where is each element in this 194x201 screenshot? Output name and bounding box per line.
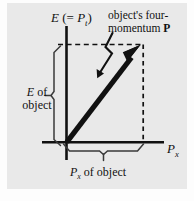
energy-brace-symbol: E <box>27 85 34 99</box>
energy-axis-sub-symbol: P <box>77 10 85 25</box>
energy-axis-paren-open: (= <box>59 10 77 25</box>
four-momentum-figure: E (= Pt) object's four- momentum P E of … <box>0 0 194 201</box>
energy-axis-symbol: E <box>51 10 59 25</box>
momentum-brace-label: Px of object <box>70 166 126 182</box>
four-momentum-label: object's four- momentum P <box>108 9 187 35</box>
energy-axis-paren-close: ) <box>87 10 91 25</box>
momentum-axis-sub-index: x <box>175 149 179 159</box>
energy-brace-label: E of object <box>15 86 59 112</box>
four-momentum-vector-symbol: P <box>163 22 170 34</box>
energy-brace-of: of <box>37 85 47 99</box>
four-momentum-line1: object's four- <box>108 9 168 21</box>
momentum-axis-symbol: P <box>167 141 175 156</box>
momentum-axis-label: Px <box>167 142 179 159</box>
momentum-brace-suffix: of object <box>81 165 126 179</box>
energy-axis-label: E (= Pt) <box>51 11 92 28</box>
energy-brace-object: object <box>22 98 51 112</box>
four-momentum-line2-prefix: momentum <box>108 22 163 34</box>
figure-panel: E (= Pt) object's four- momentum P E of … <box>7 3 187 189</box>
